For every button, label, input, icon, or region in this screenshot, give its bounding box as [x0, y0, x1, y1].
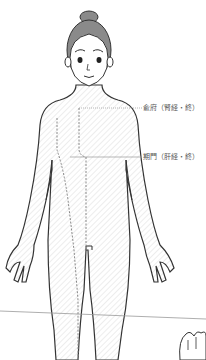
- head: [65, 11, 113, 86]
- annotation-qimen: 期門（肝経・終）: [143, 153, 199, 161]
- foot-sketch: [180, 332, 206, 360]
- body-diagram: [0, 0, 206, 360]
- annotation-shufu: 兪府（腎経・終）: [143, 104, 199, 112]
- body-silhouette: [6, 85, 174, 360]
